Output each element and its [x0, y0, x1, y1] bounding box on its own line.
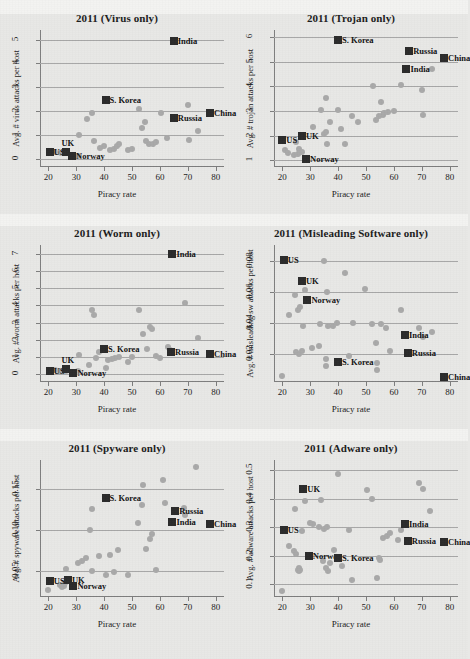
country-marker-2011-virus-only-norway	[68, 152, 76, 160]
data-point-2011-adware-only-30	[377, 557, 383, 563]
country-label-2011-adware-only-china: China	[448, 537, 470, 547]
data-point-2011-misleading-software-only-14	[323, 356, 329, 362]
plot-area-2011-adware-only: 0.10.20.30.40.520304050607080USUKNorwayS…	[274, 460, 458, 597]
data-point-2011-spyware-only-14	[107, 552, 113, 558]
x-tick-label-2011-adware-only-0: 20	[270, 602, 294, 612]
x-tick-mark-2011-spyware-only-2	[104, 597, 105, 601]
country-marker-2011-adware-only-us	[280, 526, 288, 534]
country-label-2011-virus-only-s-korea: S. Korea	[110, 95, 141, 105]
x-tick-label-2011-worm-only-1: 30	[64, 387, 88, 397]
x-tick-label-2011-virus-only-5: 70	[176, 172, 200, 182]
country-marker-2011-virus-only-china	[206, 109, 214, 117]
data-point-2011-worm-only-19	[140, 331, 146, 337]
y-tick-label-2011-misleading-software-only-2: 0.06	[244, 274, 254, 308]
y-tick-label-2011-worm-only-7: 7	[10, 236, 20, 270]
country-marker-2011-misleading-software-only-norway	[303, 296, 311, 304]
data-point-2011-worm-only-16	[125, 359, 131, 365]
gridline-y-2011-virus-only-2	[40, 111, 224, 112]
data-point-2011-virus-only-17	[136, 106, 142, 112]
x-tick-mark-2011-spyware-only-5	[188, 597, 189, 601]
panel-title-2011-virus-only: 2011 (Virus only)	[0, 12, 234, 24]
data-point-2011-trojan-only-13	[327, 119, 333, 125]
panel-misleading-software: 2011 (Misleading Software only)Avg. # mi…	[234, 215, 468, 430]
country-label-2011-worm-only-china: China	[214, 349, 236, 359]
country-label-2011-adware-only-russia: Russia	[412, 536, 436, 546]
y-tick-mark-2011-worm-only-1	[36, 357, 40, 358]
country-label-2011-spyware-only-s-korea: S. Korea	[110, 493, 141, 503]
country-marker-2011-virus-only-india	[170, 37, 178, 45]
country-marker-2011-adware-only-india	[401, 520, 409, 528]
x-tick-mark-2011-trojan-only-6	[450, 167, 451, 171]
data-point-2011-spyware-only-25	[160, 477, 166, 483]
panel-row-3: 2011 (Spyware only)Avg. # spyware attack…	[0, 430, 468, 645]
data-point-2011-trojan-only-29	[420, 112, 426, 118]
country-label-2011-worm-only-uk: UK	[61, 355, 74, 365]
x-tick-label-2011-trojan-only-4: 60	[382, 172, 406, 182]
country-marker-2011-adware-only-russia	[404, 537, 412, 545]
country-marker-2011-trojan-only-norway	[302, 155, 310, 163]
country-label-2011-adware-only-us: US	[288, 525, 299, 535]
y-tick-mark-2011-worm-only-7	[36, 254, 40, 255]
x-tick-mark-2011-adware-only-4	[394, 597, 395, 601]
x-tick-label-2011-misleading-software-only-4: 60	[382, 387, 406, 397]
x-tick-mark-2011-virus-only-5	[188, 167, 189, 171]
country-marker-2011-trojan-only-us	[278, 136, 286, 144]
data-point-2011-misleading-software-only-16	[324, 289, 330, 295]
gridline-y-2011-worm-only-0	[40, 374, 224, 375]
country-marker-2011-spyware-only-china	[206, 520, 214, 528]
country-label-2011-trojan-only-norway: Norway	[310, 154, 339, 164]
country-label-2011-spyware-only-india: India	[176, 517, 195, 527]
country-label-2011-misleading-software-only-russia: Russia	[412, 348, 436, 358]
country-label-2011-virus-only-russia: Russia	[178, 113, 202, 123]
country-label-2011-misleading-software-only-norway: Norway	[311, 295, 340, 305]
country-label-2011-trojan-only-uk: UK	[306, 131, 319, 141]
y-tick-mark-2011-adware-only-0	[270, 584, 274, 585]
data-point-2011-spyware-only-11	[89, 506, 95, 512]
data-point-2011-misleading-software-only-23	[362, 286, 368, 292]
country-marker-2011-spyware-only-us	[46, 577, 54, 585]
data-point-2011-adware-only-3	[292, 506, 298, 512]
country-label-2011-misleading-software-only-uk: UK	[306, 276, 319, 286]
x-tick-mark-2011-adware-only-0	[282, 597, 283, 601]
gridline-y-2011-trojan-only-4	[274, 62, 458, 63]
gridline-y-2011-worm-only-7	[40, 254, 224, 255]
plot-area-2011-misleading-software-only: 0.020.040.060.0820304050607080USUKNorway…	[274, 245, 458, 382]
x-tick-label-2011-adware-only-3: 50	[354, 602, 378, 612]
country-label-2011-misleading-software-only-us: US	[288, 255, 299, 265]
country-label-2011-spyware-only-norway: Norway	[77, 581, 106, 591]
data-point-2011-spyware-only-20	[140, 482, 146, 488]
y-tick-mark-2011-spyware-only-0	[36, 571, 40, 572]
country-marker-2011-trojan-only-china	[440, 54, 448, 62]
gridline-y-2011-misleading-software-only-3	[274, 261, 458, 262]
country-marker-2011-worm-only-s-korea	[100, 345, 108, 353]
country-label-2011-adware-only-uk: UK	[307, 484, 320, 494]
x-tick-label-2011-spyware-only-2: 40	[92, 602, 116, 612]
x-tick-label-2011-virus-only-3: 50	[120, 172, 144, 182]
country-marker-2011-trojan-only-s-korea	[334, 36, 342, 44]
country-marker-2011-worm-only-us	[46, 367, 54, 375]
x-tick-mark-2011-trojan-only-0	[282, 167, 283, 171]
y-tick-mark-2011-worm-only-6	[36, 271, 40, 272]
x-tick-mark-2011-virus-only-3	[132, 167, 133, 171]
y-tick-mark-2011-spyware-only-1	[36, 530, 40, 531]
country-marker-2011-spyware-only-india	[168, 518, 176, 526]
y-tick-mark-2011-spyware-only-2	[36, 489, 40, 490]
x-tick-mark-2011-trojan-only-4	[394, 167, 395, 171]
x-tick-mark-2011-worm-only-3	[132, 382, 133, 386]
x-tick-label-2011-adware-only-2: 40	[326, 602, 350, 612]
country-marker-2011-adware-only-s-korea	[334, 554, 342, 562]
country-marker-2011-trojan-only-india	[402, 65, 410, 73]
x-tick-label-2011-worm-only-0: 20	[36, 387, 60, 397]
x-tick-label-2011-trojan-only-6: 80	[438, 172, 462, 182]
x-tick-mark-2011-misleading-software-only-5	[422, 382, 423, 386]
data-point-2011-spyware-only-21	[143, 546, 149, 552]
country-label-2011-worm-only-norway: Norway	[77, 368, 106, 378]
x-tick-mark-2011-virus-only-1	[76, 167, 77, 171]
x-tick-label-2011-spyware-only-4: 60	[148, 602, 172, 612]
x-tick-mark-2011-spyware-only-3	[132, 597, 133, 601]
data-point-2011-virus-only-10	[101, 143, 107, 149]
gridline-y-2011-misleading-software-only-2	[274, 292, 458, 293]
country-marker-2011-misleading-software-only-russia	[404, 349, 412, 357]
data-point-2011-adware-only-33	[387, 530, 393, 536]
data-point-2011-adware-only-20	[327, 560, 333, 566]
